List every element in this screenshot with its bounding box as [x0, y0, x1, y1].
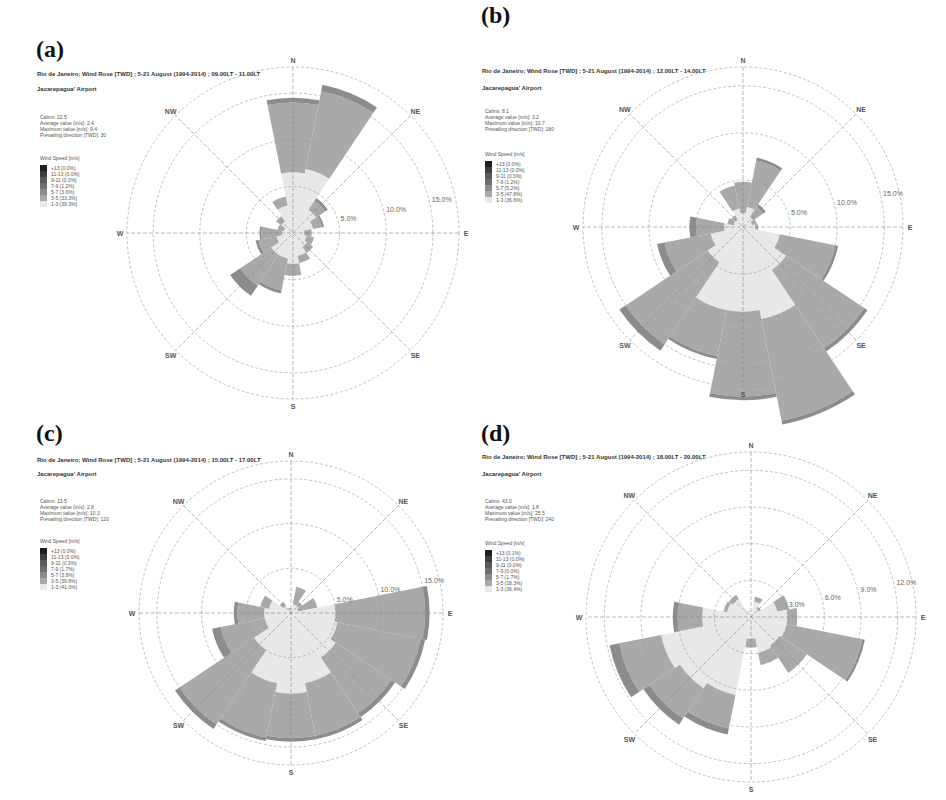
direction-label: NE [410, 108, 420, 115]
direction-label: W [576, 614, 583, 621]
ring-label: 5.0% [341, 215, 357, 222]
ring-label: 12.0% [896, 579, 916, 586]
direction-label: W [117, 230, 124, 237]
direction-label: N [740, 57, 745, 64]
direction-label: E [464, 230, 469, 237]
wind-rose: 5.0%10.0%15.0%NNEESESSWWNW [473, 0, 946, 400]
direction-label: N [748, 442, 753, 449]
direction-label: SW [624, 736, 636, 743]
direction-label: NE [399, 498, 409, 505]
direction-label: N [288, 451, 293, 458]
ring-label: 15.0% [432, 196, 452, 203]
direction-label: S [741, 391, 746, 398]
direction-label: W [129, 610, 136, 617]
ring-label: 10.0% [837, 199, 857, 206]
direction-label: E [921, 614, 926, 621]
ring-label: 10.0% [386, 206, 406, 213]
direction-label: NW [165, 108, 177, 115]
direction-label: S [289, 769, 294, 776]
direction-label: NW [619, 106, 631, 113]
direction-label: NW [173, 498, 185, 505]
direction-label: SE [868, 736, 878, 743]
direction-label: NW [624, 492, 636, 499]
direction-label: SW [619, 342, 631, 349]
direction-label: SE [399, 722, 409, 729]
ring-label: 10.0% [380, 586, 400, 593]
direction-label: W [573, 224, 580, 231]
panel-c: (c) Rio de Janeiro; Wind Rose [TWD] ; 5-… [0, 400, 473, 800]
ring-label: 9.0% [861, 586, 877, 593]
direction-label: N [290, 57, 295, 64]
direction-label: SW [173, 722, 185, 729]
wind-rose: 5.0%10.0%15.0%NNEESESSWWNW [0, 0, 473, 400]
wind-rose: 5.0%10.0%15.0%NNEESESSWWNW [0, 400, 473, 800]
ring-label: 5.0% [791, 209, 807, 216]
direction-label: S [749, 786, 754, 793]
panel-a: (a) Rio de Janeiro; Wind Rose [TWD] ; 5-… [0, 0, 473, 400]
rose-segment [747, 161, 781, 210]
ring-label: 3.0% [789, 601, 805, 608]
direction-label: SW [165, 352, 177, 359]
ring-label: 15.0% [424, 577, 444, 584]
ring-label: 15.0% [883, 190, 903, 197]
panel-b: (b) Rio de Janeiro; Wind Rose [TWD] ; 5-… [473, 0, 946, 400]
direction-label: NE [856, 106, 866, 113]
ring-label: 5.0% [337, 596, 353, 603]
direction-label: NE [868, 492, 878, 499]
direction-label: SE [411, 352, 421, 359]
direction-label: SE [856, 342, 866, 349]
direction-label: E [448, 610, 453, 617]
wind-rose: 3.0%6.0%9.0%12.0%NNEESESSWWNW [473, 400, 946, 800]
panel-d: (d) Rio de Janeiro; Wind Rose [TWD] ; 5-… [473, 400, 946, 800]
direction-label: E [908, 224, 913, 231]
ring-label: 6.0% [825, 594, 841, 601]
